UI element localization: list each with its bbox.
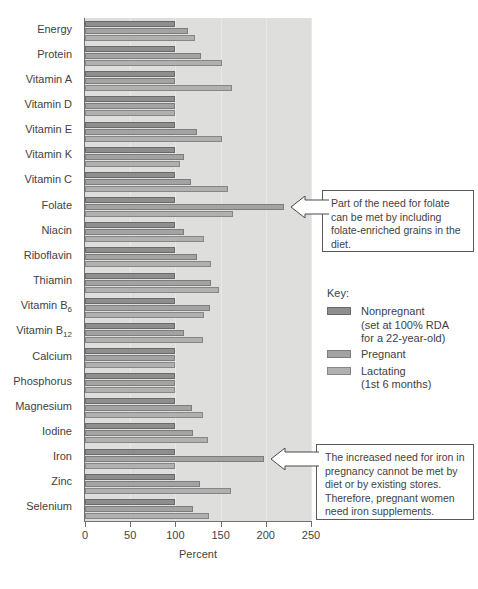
bar-group <box>85 323 311 345</box>
x-tick-150 <box>221 522 222 527</box>
bar <box>85 398 175 404</box>
bar <box>85 298 175 304</box>
callout-folate: Part of the need for folate can be met b… <box>322 190 474 252</box>
category-label: Vitamin B12 <box>16 325 72 340</box>
category-label: Energy <box>37 24 72 35</box>
bar <box>85 122 175 128</box>
legend-entries: Nonpregnant(set at 100% RDAfor a 22-year… <box>327 305 475 392</box>
x-tick-label: 100 <box>155 529 195 541</box>
bar <box>85 463 175 469</box>
bar <box>85 337 203 343</box>
bar <box>85 412 203 418</box>
x-tick-label: 250 <box>291 529 331 541</box>
bar <box>85 387 175 393</box>
category-label: Vitamin C <box>25 174 72 185</box>
legend-sublabel: (set at 100% RDA <box>361 319 475 333</box>
legend-entry: Lactating(1st 6 months) <box>327 365 475 392</box>
bar <box>85 110 175 116</box>
callout-iron: The increased need for iron in pregnancy… <box>316 444 474 520</box>
category-label: Riboflavin <box>24 250 72 261</box>
bar <box>85 513 209 519</box>
gridline-250 <box>311 18 312 521</box>
bar-group <box>85 298 311 320</box>
bar <box>85 430 193 436</box>
category-label: Vitamin D <box>25 99 72 110</box>
category-label: Niacin <box>41 225 72 236</box>
bar <box>85 481 200 487</box>
bar <box>85 355 175 361</box>
bar-group <box>85 423 311 445</box>
callout-iron-arrow <box>265 448 319 470</box>
bar <box>85 273 175 279</box>
bar <box>85 305 210 311</box>
bar <box>85 247 175 253</box>
legend-sublabel: (1st 6 months) <box>361 378 475 392</box>
bar-group <box>85 71 311 93</box>
bar <box>85 287 219 293</box>
legend-label: Nonpregnant <box>361 305 475 319</box>
bar <box>85 60 222 66</box>
bar-group <box>85 398 311 420</box>
bar <box>85 362 175 368</box>
bar <box>85 222 175 228</box>
category-label: Vitamin E <box>25 124 72 135</box>
bar <box>85 323 175 329</box>
bar <box>85 488 231 494</box>
legend-title: Key: <box>327 286 475 300</box>
bar-group <box>85 147 311 169</box>
category-label: Selenium <box>26 501 72 512</box>
category-label: Iodine <box>42 426 72 437</box>
bar <box>85 373 175 379</box>
x-axis-line <box>84 521 312 522</box>
category-label: Thiamin <box>33 275 72 286</box>
bar <box>85 129 197 135</box>
legend-swatch <box>327 367 351 375</box>
category-label: Calcium <box>32 351 72 362</box>
category-axis-labels: EnergyProteinVitamin AVitamin DVitamin E… <box>0 18 80 521</box>
x-tick-label: 200 <box>246 529 286 541</box>
bar <box>85 405 192 411</box>
bar <box>85 172 175 178</box>
bar <box>85 204 284 210</box>
callout-folate-arrow <box>285 196 329 218</box>
bar-group <box>85 273 311 295</box>
bar <box>85 280 211 286</box>
legend-entry: Nonpregnant(set at 100% RDAfor a 22-year… <box>327 305 475 346</box>
bar <box>85 474 175 480</box>
bar-group <box>85 21 311 43</box>
bar <box>85 96 175 102</box>
x-tick-label: 50 <box>110 529 150 541</box>
x-tick-0 <box>85 522 86 527</box>
legend-sublabel: for a 22-year-old) <box>361 332 475 346</box>
bar <box>85 147 175 153</box>
x-tick-250 <box>311 522 312 527</box>
category-label: Vitamin A <box>26 74 72 85</box>
category-label: Protein <box>37 49 72 60</box>
bar <box>85 456 264 462</box>
bar <box>85 506 193 512</box>
bar-group <box>85 247 311 269</box>
bar <box>85 53 201 59</box>
bar <box>85 499 175 505</box>
bar <box>85 312 204 318</box>
category-label: Vitamin B6 <box>21 300 72 315</box>
bar-group <box>85 474 311 496</box>
bar <box>85 423 175 429</box>
bar <box>85 154 184 160</box>
bar <box>85 71 175 77</box>
bar <box>85 449 175 455</box>
bar <box>85 348 175 354</box>
legend-label: Lactating <box>361 365 475 379</box>
bar-group <box>85 499 311 521</box>
category-label: Folate <box>41 200 72 211</box>
bar <box>85 103 175 109</box>
bar <box>85 161 180 167</box>
bar <box>85 186 228 192</box>
bar <box>85 179 191 185</box>
x-tick-label: 150 <box>201 529 241 541</box>
bar-group <box>85 197 311 219</box>
bar-group <box>85 172 311 194</box>
legend-entry: Pregnant <box>327 348 475 363</box>
legend-swatch <box>327 350 351 358</box>
bar <box>85 21 175 27</box>
